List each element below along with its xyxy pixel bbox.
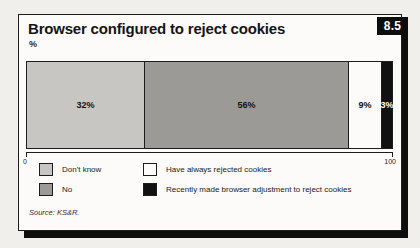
chart-frame: 8.5 Browser configured to reject cookies…	[18, 14, 402, 231]
chart-title: Browser configured to reject cookies	[28, 20, 285, 37]
legend-item-dont-know: Don't know	[39, 163, 101, 176]
legend-swatch-dont-know	[39, 163, 53, 176]
chart-unit-label: %	[29, 39, 37, 49]
bar-segment-no: 56%	[144, 62, 348, 148]
x-axis	[26, 152, 393, 157]
source-note: Source: KS&R.	[29, 208, 79, 217]
legend-label: Recently made browser adjustment to reje…	[166, 185, 351, 194]
x-axis-tick-max: 100	[384, 158, 396, 165]
legend-label: Don't know	[62, 165, 101, 174]
legend-item-recent-adjustment: Recently made browser adjustment to reje…	[143, 183, 351, 196]
legend-item-always-rejected: Have always rejected cookies	[143, 163, 271, 176]
figure-number-badge: 8.5	[377, 17, 408, 35]
legend-swatch-always-rejected	[143, 163, 157, 176]
legend-swatch-recent-adjustment	[143, 183, 157, 196]
legend-label: No	[62, 185, 72, 194]
x-axis-tick-min: 0	[23, 158, 27, 165]
legend-swatch-no	[39, 183, 53, 196]
bar-segment-dont-know: 32%	[27, 62, 144, 148]
bar-segment-recent-adjustment: 3%	[381, 62, 392, 148]
stacked-bar: 32% 56% 9% 3%	[26, 61, 393, 149]
legend-label: Have always rejected cookies	[166, 165, 271, 174]
bar-segment-always-rejected: 9%	[348, 62, 381, 148]
legend-item-no: No	[39, 183, 72, 196]
